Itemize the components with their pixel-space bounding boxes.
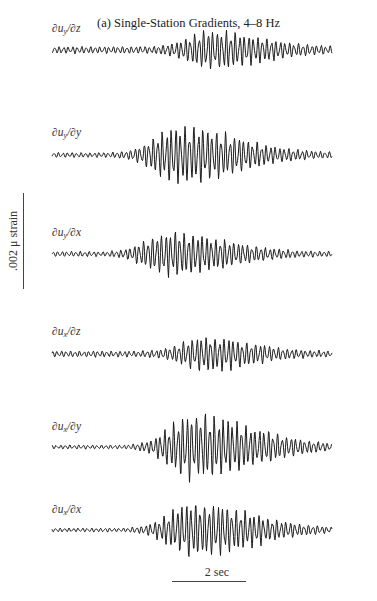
waveform-trace: [52, 232, 332, 278]
waveform-trace: [52, 126, 332, 183]
trace-label: ∂ux/∂y: [52, 420, 81, 434]
trace-label: ∂uy/∂y: [52, 126, 81, 140]
waveform-trace: [52, 414, 332, 482]
strain-scale-label: .002 μ strain: [6, 211, 21, 271]
waveform-trace: [52, 506, 332, 557]
strain-scale-bar: [23, 193, 24, 289]
time-scale-label: 2 sec: [182, 565, 252, 580]
waveform-trace: [52, 338, 332, 372]
trace-label: ∂ux/∂z: [52, 325, 80, 339]
trace-label: ∂uy/∂z: [52, 22, 80, 36]
trace-label: ∂ux/∂x: [52, 503, 81, 517]
trace-label: ∂uy/∂x: [52, 226, 81, 240]
time-scale-bar: [172, 581, 246, 582]
waveform-trace: [52, 30, 332, 69]
